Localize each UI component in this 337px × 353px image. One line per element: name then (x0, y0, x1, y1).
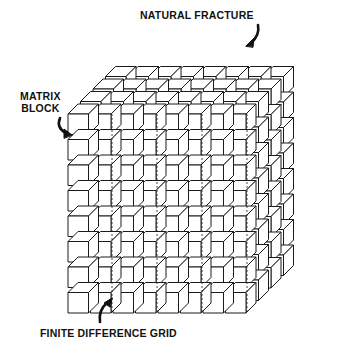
matrix-block-label: MATRIX BLOCK (20, 90, 61, 114)
dual-porosity-cube-diagram (0, 0, 337, 353)
matrix-block-label-line2: BLOCK (20, 102, 61, 114)
natural-fracture-arrowhead-icon (246, 38, 254, 47)
finite-difference-grid-label: FINITE DIFFERENCE GRID (40, 327, 177, 339)
matrix-blocks-grid (68, 67, 294, 314)
matrix-block-label-line1: MATRIX (20, 90, 61, 102)
natural-fracture-label: NATURAL FRACTURE (140, 9, 254, 21)
